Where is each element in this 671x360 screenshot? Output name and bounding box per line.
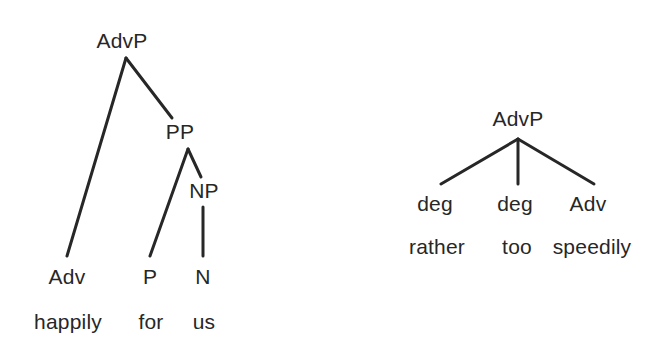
node-label-adv: Adv (570, 193, 607, 214)
node-label-adv: Adv (49, 266, 86, 287)
syntax-tree-figure: AdvP PP NP Adv P N happily for us AdvP d… (0, 0, 671, 360)
node-label-n: N (195, 266, 210, 287)
node-label-advp-root: AdvP (97, 30, 148, 51)
word-label-for: for (138, 311, 163, 332)
node-label-deg-first: deg (417, 193, 453, 214)
node-label-p: P (143, 266, 157, 287)
tree-branch-lines-right (340, 0, 671, 360)
word-label-happily: happily (34, 311, 102, 332)
edge-pp-to-np (188, 149, 201, 177)
node-label-deg-second: deg (497, 193, 533, 214)
edge-root-to-pp (126, 58, 172, 118)
tree-branch-lines-left (0, 0, 340, 360)
node-label-advp-root: AdvP (493, 108, 544, 129)
word-label-speedily: speedily (553, 236, 632, 257)
word-label-too: too (502, 236, 532, 257)
edge-root-to-adv (518, 139, 594, 184)
syntax-tree-happily-for-us: AdvP PP NP Adv P N happily for us (0, 0, 340, 360)
word-label-us: us (193, 311, 216, 332)
edge-pp-to-p (150, 149, 188, 256)
edge-root-to-adv (67, 58, 126, 256)
word-label-rather: rather (409, 236, 465, 257)
node-label-np: NP (189, 180, 219, 201)
edge-root-to-deg-1 (441, 139, 518, 184)
node-label-pp: PP (166, 121, 194, 142)
syntax-tree-rather-too-speedily: AdvP deg deg Adv rather too speedily (340, 0, 671, 360)
